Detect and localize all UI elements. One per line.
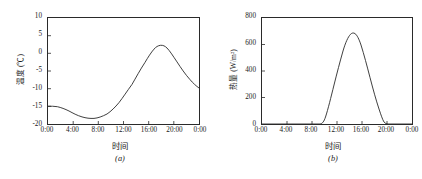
x-tick-a-6: 0:00 bbox=[194, 127, 207, 134]
x-tick-b-6: 0:00 bbox=[406, 127, 419, 134]
data-line-solar-heat bbox=[262, 33, 412, 124]
x-tick-b-4: 16:00 bbox=[353, 127, 369, 134]
figure-container: 温度 (℃) 10 5 0 -5 -10 -15 -20 bbox=[0, 0, 422, 179]
x-tick-a-2: 8:00 bbox=[92, 127, 105, 134]
y-tick-a-5: -15 bbox=[32, 103, 42, 110]
y-tick-b-0: 800 bbox=[245, 13, 256, 20]
x-tick-b-2: 8:00 bbox=[305, 127, 318, 134]
panel-caption-b: (b) bbox=[243, 154, 422, 163]
y-tick-b-2: 400 bbox=[245, 67, 256, 74]
x-tick-labels-a: 0:00 4:00 8:00 12:00 16:00 20:00 0:00 bbox=[47, 127, 200, 139]
x-tick-a-1: 4:00 bbox=[66, 127, 79, 134]
x-tick-labels-b: 0:00 4:00 8:00 12:00 16:00 20:00 0:00 bbox=[261, 127, 413, 139]
y-tick-labels-b: 800 600 400 200 0 bbox=[229, 17, 256, 125]
x-axis-title-a: 时间 bbox=[30, 139, 210, 151]
y-tick-b-3: 200 bbox=[245, 94, 256, 101]
chart-panel-b: 热量 (W/m²) 800 600 400 200 0 bbox=[211, 0, 422, 179]
x-tick-a-5: 20:00 bbox=[166, 127, 182, 134]
x-tick-b-0: 0:00 bbox=[255, 127, 268, 134]
plot-area-a bbox=[47, 17, 200, 125]
plot-area-b bbox=[261, 17, 413, 125]
panel-caption-a: (a) bbox=[30, 154, 210, 163]
x-tick-b-1: 4:00 bbox=[280, 127, 293, 134]
plot-svg-a bbox=[48, 18, 199, 124]
x-tick-b-5: 20:00 bbox=[378, 127, 394, 134]
y-tick-a-2: 0 bbox=[38, 49, 42, 56]
chart-panel-a: 温度 (℃) 10 5 0 -5 -10 -15 -20 bbox=[0, 0, 211, 179]
y-tick-a-0: 10 bbox=[35, 13, 42, 20]
y-tick-a-3: -5 bbox=[36, 67, 42, 74]
data-line-temperature bbox=[48, 45, 199, 118]
plot-svg-b bbox=[262, 18, 412, 124]
y-tick-labels-a: 10 5 0 -5 -10 -15 -20 bbox=[18, 17, 42, 125]
y-tick-a-1: 5 bbox=[38, 31, 42, 38]
x-tick-a-0: 0:00 bbox=[41, 127, 54, 134]
y-tick-b-1: 600 bbox=[245, 40, 256, 47]
tick-marks-b bbox=[262, 45, 387, 125]
x-tick-a-3: 12:00 bbox=[115, 127, 131, 134]
x-tick-b-3: 12:00 bbox=[328, 127, 344, 134]
y-tick-a-4: -10 bbox=[32, 85, 42, 92]
x-tick-a-4: 16:00 bbox=[141, 127, 157, 134]
x-axis-title-b: 时间 bbox=[243, 139, 422, 151]
